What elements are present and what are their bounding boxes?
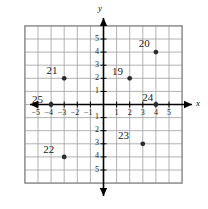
x-tick-label: −4 bbox=[45, 109, 54, 117]
axis-lines bbox=[30, 18, 192, 196]
x-tick-label: −1 bbox=[84, 109, 93, 117]
y-tick-label: 4 bbox=[95, 48, 99, 56]
x-tick-label: 4 bbox=[154, 109, 158, 117]
y-tick-label: 2 bbox=[95, 126, 99, 134]
point-label: 24 bbox=[142, 92, 153, 103]
x-tick-label: 1 bbox=[115, 109, 119, 117]
y-axis-label: y bbox=[98, 4, 102, 13]
point-label: 22 bbox=[43, 144, 54, 155]
y-tick-label: 2 bbox=[95, 74, 99, 82]
x-axis-label: x bbox=[196, 99, 200, 108]
coordinate-plane: y x −5−4−3−2−1123455432112345 1920212223… bbox=[0, 0, 208, 209]
y-tick-label: 3 bbox=[95, 139, 99, 147]
x-tick-label: 3 bbox=[141, 109, 145, 117]
y-tick-label: 1 bbox=[95, 113, 99, 121]
x-tick-label: −2 bbox=[71, 109, 80, 117]
y-tick-label: 5 bbox=[95, 35, 99, 43]
y-tick-label: 3 bbox=[95, 61, 99, 69]
point-label: 19 bbox=[112, 66, 123, 77]
point-label: 20 bbox=[139, 38, 150, 49]
y-tick-label: 4 bbox=[95, 152, 99, 160]
x-tick-label: −3 bbox=[58, 109, 67, 117]
x-tick-label: 2 bbox=[128, 109, 132, 117]
x-tick-label: 5 bbox=[167, 109, 171, 117]
point-label: 25 bbox=[32, 94, 43, 105]
x-tick-label: −5 bbox=[32, 109, 41, 117]
point-label: 23 bbox=[118, 130, 129, 141]
y-tick-label: 5 bbox=[95, 166, 99, 174]
point-label: 21 bbox=[47, 65, 58, 76]
y-tick-label: 1 bbox=[95, 87, 99, 95]
